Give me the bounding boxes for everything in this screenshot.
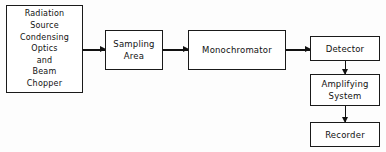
box-label-line: Optics xyxy=(31,43,58,55)
box-label-line: Radiation xyxy=(25,8,65,20)
box-label-line: Recorder xyxy=(325,130,365,140)
arrow-detector-to-amplifier-icon xyxy=(341,61,350,74)
arrow-amplifier-to-recorder-icon xyxy=(341,106,350,122)
arrow-source-to-sampling-icon xyxy=(83,46,105,55)
radiation-source-box: Radiation Source Condensing Optics and B… xyxy=(6,5,83,93)
box-label-line: Condensing xyxy=(20,32,69,44)
box-label-line: Monochromator xyxy=(202,44,272,56)
arrow-monochromator-to-detector-icon xyxy=(286,46,310,55)
amplifying-system-box: Amplifying System xyxy=(310,74,380,106)
box-label-line: System xyxy=(329,90,362,102)
detector-box: Detector xyxy=(310,36,380,61)
sampling-area-box: Sampling Area xyxy=(105,30,163,70)
box-label-line: Detector xyxy=(326,44,365,54)
block-flow-diagram: Radiation Source Condensing Optics and B… xyxy=(0,0,386,152)
box-label-line: Area xyxy=(124,50,144,63)
box-label-line: Chopper xyxy=(27,78,62,90)
box-label-line: and xyxy=(37,55,53,67)
arrow-sampling-to-monochromator-icon xyxy=(163,46,188,55)
box-label-line: Sampling xyxy=(113,38,154,51)
recorder-box: Recorder xyxy=(310,122,380,147)
box-label-line: Beam xyxy=(33,66,57,78)
box-label-line: Source xyxy=(30,20,59,32)
monochromator-box: Monochromator xyxy=(188,30,286,70)
box-label-line: Amplifying xyxy=(321,78,368,90)
